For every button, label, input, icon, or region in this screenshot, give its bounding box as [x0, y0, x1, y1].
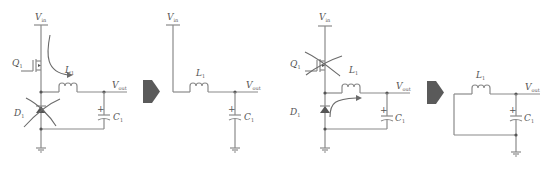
- plus-sign: +: [509, 105, 517, 115]
- q1-label: Q1: [290, 59, 301, 70]
- inductor-l1-icon: [59, 83, 77, 92]
- current-flow-path: [330, 98, 356, 117]
- mosfet-q1-icon: [21, 59, 41, 72]
- mosfet-q1-icon: [305, 59, 325, 72]
- d1-label: D1: [13, 108, 24, 119]
- plus-sign: +: [97, 104, 105, 114]
- l1-label: L1: [475, 70, 485, 81]
- inductor-l1-icon: [472, 85, 490, 94]
- transition-arrow-icon: [143, 80, 160, 103]
- plus-sign: +: [228, 104, 236, 114]
- vin-label: Vin: [35, 12, 47, 23]
- vout-label: Vout: [525, 82, 540, 93]
- panel-on-state-full: Vin Q1 L1 Vout D1: [12, 12, 127, 152]
- l1-label: L1: [64, 65, 74, 76]
- panel-off-state-equivalent: L1 Vout + C1: [454, 70, 540, 156]
- q1-label: Q1: [12, 58, 23, 69]
- c1-label: C1: [113, 112, 123, 123]
- vout-label: Vout: [112, 80, 127, 91]
- c1-label: C1: [524, 113, 534, 124]
- vin-label: Vin: [319, 12, 331, 23]
- ground-icon: [511, 152, 521, 156]
- panel-on-state-equivalent: Vin L1 Vout + C1: [166, 12, 261, 152]
- ground-icon: [36, 148, 46, 152]
- c1-label: C1: [244, 112, 254, 123]
- l1-label: L1: [195, 68, 205, 79]
- c1-label: C1: [395, 113, 405, 124]
- ground-icon: [230, 148, 240, 152]
- inductor-l1-icon: [342, 84, 360, 93]
- inductor-l1-icon: [190, 83, 208, 92]
- transition-arrow-icon: [427, 81, 444, 104]
- vout-label: Vout: [396, 81, 411, 92]
- diode-d1-icon: [320, 106, 330, 113]
- current-flow-arrowhead: [356, 95, 362, 101]
- vin-label: Vin: [167, 12, 179, 23]
- vout-label: Vout: [246, 80, 261, 91]
- l1-label: L1: [348, 65, 358, 76]
- buck-converter-diagram: Vin Q1 L1 Vout D1: [0, 0, 552, 170]
- plus-sign: +: [380, 105, 388, 115]
- ground-icon: [320, 148, 330, 152]
- panel-off-state-full: Vin Q1 L1 Vout D1: [289, 12, 411, 152]
- d1-label: D1: [289, 107, 300, 118]
